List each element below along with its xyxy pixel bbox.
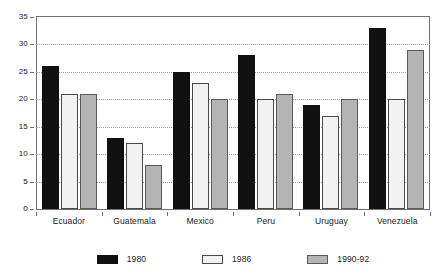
x-axis: EcuadorGuatemalaMexicoPeruUruguayVenezue… xyxy=(36,212,430,230)
x-tick-mark xyxy=(102,212,103,216)
y-tick-label: 25 xyxy=(19,68,28,76)
bar-peru-1986 xyxy=(257,99,274,209)
legend-swatch-icon xyxy=(97,255,118,264)
bar-ecuador-1990-92 xyxy=(80,94,97,209)
y-tick-mark xyxy=(30,44,34,45)
y-tick-mark xyxy=(30,17,34,18)
x-tick-label-uruguay: Uruguay xyxy=(299,212,365,230)
y-axis: 05101520253035 xyxy=(0,16,34,210)
y-tick-mark xyxy=(30,182,34,183)
x-tick-mark xyxy=(167,212,168,216)
legend-item-1986[interactable]: 1986 xyxy=(202,255,251,264)
bar-venezuela-1986 xyxy=(388,99,405,209)
bar-group-venezuela xyxy=(364,17,429,209)
legend-swatch-icon xyxy=(307,255,328,264)
bar-mexico-1980 xyxy=(173,72,190,209)
bar-guatemala-1986 xyxy=(126,143,143,209)
y-tick-mark xyxy=(30,154,34,155)
bar-peru-1990-92 xyxy=(276,94,293,209)
bar-groups xyxy=(37,17,429,209)
y-tick-label: 5 xyxy=(23,178,28,186)
x-tick-mark xyxy=(364,212,365,216)
legend-item-1990-92[interactable]: 1990-92 xyxy=(307,255,369,264)
x-tick-mark xyxy=(299,212,300,216)
x-tick-label-peru: Peru xyxy=(233,212,299,230)
y-tick-mark xyxy=(30,99,34,100)
legend-label: 1980 xyxy=(127,255,146,264)
y-tick-label: 20 xyxy=(19,95,28,103)
bar-group-peru xyxy=(233,17,298,209)
x-tick-label-guatemala: Guatemala xyxy=(102,212,168,230)
bar-uruguay-1986 xyxy=(322,116,339,209)
bar-group-guatemala xyxy=(102,17,167,209)
x-tick-mark xyxy=(36,212,37,216)
bar-venezuela-1980 xyxy=(369,28,386,209)
bar-group-ecuador xyxy=(37,17,102,209)
y-tick-label: 15 xyxy=(19,123,28,131)
bar-uruguay-1990-92 xyxy=(341,99,358,209)
legend-item-1980[interactable]: 1980 xyxy=(97,255,146,264)
legend-swatch-icon xyxy=(202,255,223,264)
bar-uruguay-1980 xyxy=(303,105,320,209)
y-tick-mark xyxy=(30,72,34,73)
bar-group-uruguay xyxy=(298,17,363,209)
chart-legend: 198019861990-92 xyxy=(36,250,430,268)
x-tick-label-mexico: Mexico xyxy=(167,212,233,230)
x-tick-mark xyxy=(233,212,234,216)
y-tick-label: 30 xyxy=(19,40,28,48)
x-tick-mark xyxy=(430,212,431,216)
bar-peru-1980 xyxy=(238,55,255,209)
bar-guatemala-1990-92 xyxy=(145,165,162,209)
y-tick-mark xyxy=(30,209,34,210)
y-tick-label: 0 xyxy=(23,205,28,213)
bar-chart: 05101520253035 EcuadorGuatemalaMexicoPer… xyxy=(0,0,445,280)
bar-ecuador-1986 xyxy=(61,94,78,209)
plot-area xyxy=(36,16,430,210)
y-tick-label: 35 xyxy=(19,13,28,21)
y-tick-label: 10 xyxy=(19,150,28,158)
bar-ecuador-1980 xyxy=(42,66,59,209)
bar-guatemala-1980 xyxy=(107,138,124,209)
bar-mexico-1986 xyxy=(192,83,209,209)
legend-label: 1986 xyxy=(232,255,251,264)
legend-label: 1990-92 xyxy=(337,255,369,264)
x-tick-label-ecuador: Ecuador xyxy=(36,212,102,230)
bar-mexico-1990-92 xyxy=(211,99,228,209)
y-tick-mark xyxy=(30,127,34,128)
bar-venezuela-1990-92 xyxy=(407,50,424,209)
bar-group-mexico xyxy=(168,17,233,209)
x-tick-label-venezuela: Venezuela xyxy=(364,212,430,230)
